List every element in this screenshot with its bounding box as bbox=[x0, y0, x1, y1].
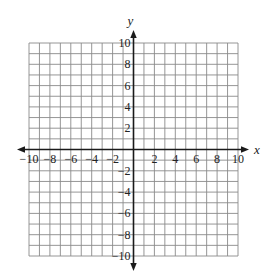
y-tick-label: 4 bbox=[125, 100, 131, 114]
x-axis-label: x bbox=[253, 142, 260, 157]
y-tick-label: −2 bbox=[118, 164, 131, 178]
y-tick-label: 6 bbox=[125, 79, 131, 93]
y-axis-down-arrow-icon bbox=[130, 263, 136, 271]
y-tick-label: −8 bbox=[118, 228, 131, 242]
coordinate-plane: −10−8−6−4−2246810 108642−2−4−6−8−10 x y bbox=[0, 0, 276, 278]
x-tick-label: 10 bbox=[232, 152, 244, 166]
x-tick-label: 8 bbox=[214, 152, 220, 166]
y-tick-label: −6 bbox=[118, 206, 131, 220]
y-tick-label: −10 bbox=[112, 249, 131, 263]
y-tick-label: 2 bbox=[125, 121, 131, 135]
y-tick-label: −4 bbox=[118, 185, 131, 199]
x-tick-label: −4 bbox=[85, 152, 98, 166]
x-tick-label: 2 bbox=[151, 152, 157, 166]
y-tick-label: 8 bbox=[125, 57, 131, 71]
coordinate-grid-plot: −10−8−6−4−2246810 108642−2−4−6−8−10 x y bbox=[0, 0, 276, 278]
x-tick-labels: −10−8−6−4−2246810 bbox=[20, 152, 244, 166]
x-tick-label: −10 bbox=[20, 152, 39, 166]
x-tick-label: 6 bbox=[193, 152, 199, 166]
y-axis-up-arrow-icon bbox=[130, 30, 136, 38]
x-tick-label: −8 bbox=[44, 152, 57, 166]
y-axis-label: y bbox=[126, 13, 134, 28]
x-tick-label: −6 bbox=[64, 152, 77, 166]
x-tick-label: 4 bbox=[172, 152, 178, 166]
y-tick-label: 10 bbox=[119, 36, 131, 50]
